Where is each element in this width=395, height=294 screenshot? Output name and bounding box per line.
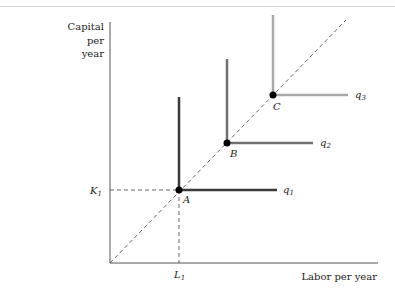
y-axis-label-line1: Capital <box>68 21 104 32</box>
point-b-label: B <box>229 148 237 159</box>
point-a-marker <box>176 187 183 194</box>
point-b-marker <box>224 140 231 147</box>
isoquant-q1-label: q1 <box>283 184 294 197</box>
y-axis-label-line3: year <box>81 48 105 59</box>
point-c-label: C <box>273 101 281 112</box>
isoquant-q3-label: q3 <box>355 89 366 102</box>
isoquant-q2 <box>227 59 313 143</box>
l1-label: L1 <box>173 269 185 282</box>
k1-label: K1 <box>89 185 102 198</box>
point-c-marker <box>270 92 277 99</box>
isoquant-q3 <box>273 15 348 95</box>
isoquant-diagram: Capital per year Labor per year K1 L1 A … <box>0 0 395 294</box>
x-axis-label: Labor per year <box>301 271 377 282</box>
point-a-label: A <box>182 194 190 205</box>
isoquant-q2-label: q2 <box>320 137 331 150</box>
y-axis-label-line2: per <box>87 35 104 46</box>
